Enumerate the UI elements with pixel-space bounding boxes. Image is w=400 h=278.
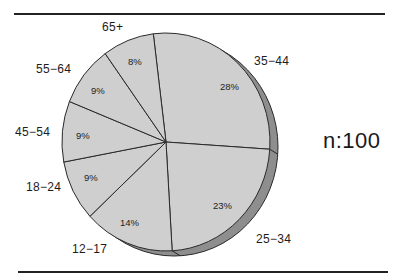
label-55-64: 55−64 bbox=[36, 62, 71, 76]
label-35-44: 35−44 bbox=[254, 54, 289, 68]
pie-face bbox=[62, 33, 270, 251]
label-18-24: 18−24 bbox=[26, 180, 61, 194]
pie-slice-35-44 bbox=[153, 33, 270, 149]
pct-45-54: 9% bbox=[76, 130, 90, 141]
pct-35-44: 28% bbox=[220, 81, 239, 92]
pct-55-64: 9% bbox=[91, 85, 105, 96]
label-65-plus: 65+ bbox=[102, 20, 123, 34]
pct-65-plus: 8% bbox=[128, 56, 142, 67]
pct-18-24: 9% bbox=[84, 172, 98, 183]
pct-12-17: 14% bbox=[120, 217, 139, 228]
label-25-34: 25−34 bbox=[256, 232, 291, 246]
sample-size-label: n:100 bbox=[323, 128, 381, 154]
label-45-54: 45−54 bbox=[15, 125, 50, 139]
pie-slice-25-34 bbox=[166, 142, 270, 251]
label-12-17: 12−17 bbox=[72, 242, 107, 256]
pct-25-34: 23% bbox=[213, 200, 232, 211]
